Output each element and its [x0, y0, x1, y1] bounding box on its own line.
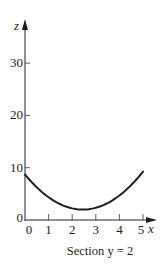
x-tick-label: 5	[138, 222, 145, 237]
x-tick-label: 2	[69, 222, 76, 237]
z-tick-label: 10	[10, 160, 23, 175]
chart-canvas: z x 0102030 012345	[0, 0, 168, 270]
z-tick-label: 30	[10, 55, 23, 70]
x-axis-ticks: 012345	[26, 214, 145, 237]
x-tick-label: 1	[45, 222, 52, 237]
z-tick-label: 0	[17, 210, 24, 225]
x-tick-label: 3	[93, 222, 100, 237]
x-axis-label: x	[147, 221, 154, 236]
x-tick-label: 0	[26, 222, 33, 237]
x-tick-label: 4	[116, 222, 123, 237]
z-tick-label: 20	[10, 107, 23, 122]
z-axis-label: z	[13, 18, 19, 33]
z-axis-arrow-icon	[22, 19, 28, 30]
z-axis-ticks: 0102030	[10, 55, 30, 225]
chart-caption: Section y = 2	[16, 244, 168, 259]
section-curve	[25, 172, 143, 210]
